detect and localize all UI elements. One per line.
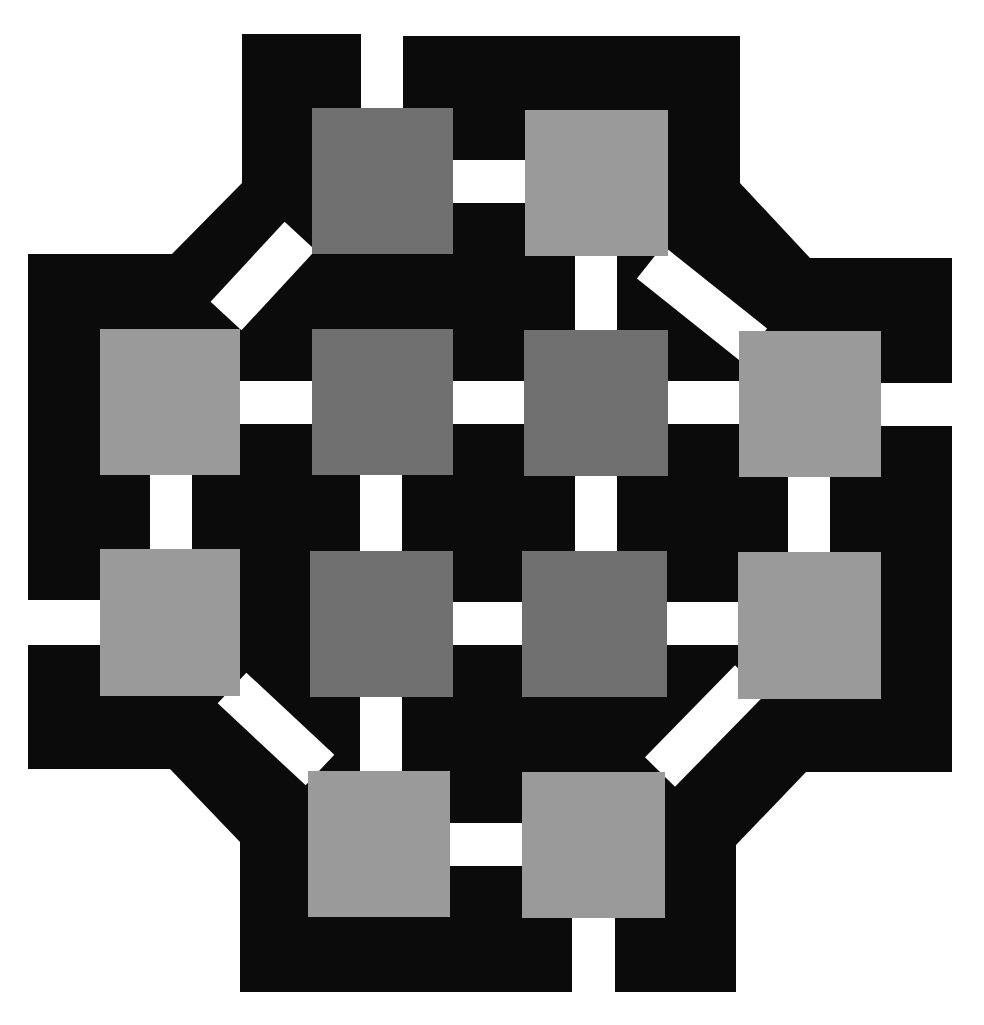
square-left-2 (100, 549, 240, 696)
gap-left-l2 (24, 600, 100, 645)
gap-r1-r2 (788, 477, 830, 552)
gap-tl-tr (453, 160, 525, 203)
gap-top-notch (361, 30, 403, 110)
gap-c1-c3 (360, 475, 402, 551)
square-right-2 (738, 552, 881, 699)
square-top-right (525, 110, 668, 256)
abstract-grid-figure (0, 0, 984, 1025)
square-center-2 (524, 330, 668, 476)
gap-c2-r1 (668, 381, 739, 424)
gap-tr-c2 (575, 256, 617, 330)
square-center-1 (312, 329, 453, 475)
gap-c4-r2 (667, 602, 738, 645)
square-center-3 (310, 551, 453, 697)
gap-l1-c1 (240, 381, 312, 424)
gap-c3-bl (360, 697, 402, 771)
figure-canvas (0, 0, 984, 1025)
gap-bottom-notch (572, 918, 615, 996)
gap-c2-c4 (575, 476, 617, 551)
gap-l1-l2 (150, 475, 192, 549)
square-left-1 (100, 329, 240, 475)
gap-r1-right (881, 383, 956, 426)
gap-bl-br (450, 823, 522, 866)
square-bottom-right (522, 772, 665, 918)
square-bottom-left (308, 771, 450, 917)
gap-c3-c4 (453, 602, 522, 645)
square-center-4 (522, 551, 667, 697)
gap-c1-c2 (453, 381, 524, 424)
square-right-1 (739, 331, 881, 477)
square-top-left (312, 108, 453, 254)
